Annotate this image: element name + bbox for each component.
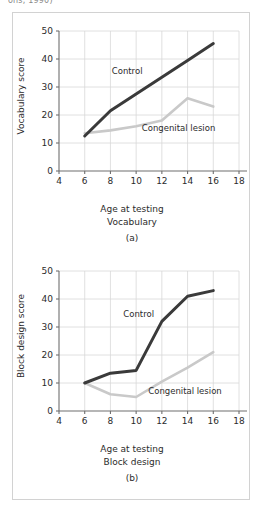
svg-text:30: 30 xyxy=(42,82,54,92)
svg-text:16: 16 xyxy=(208,416,220,426)
panel-letter-b: (b) xyxy=(13,471,251,486)
svg-text:4: 4 xyxy=(56,416,62,426)
svg-text:8: 8 xyxy=(108,176,114,186)
svg-text:14: 14 xyxy=(182,176,194,186)
svg-text:14: 14 xyxy=(182,416,194,426)
figure-frame: Vocabulary score 01020304050468101214161… xyxy=(12,12,250,500)
x-axis-title-vocabulary: Age at testing xyxy=(13,203,251,216)
svg-text:10: 10 xyxy=(42,378,54,388)
plot-area-block-design: Block design score 010203040504681012141… xyxy=(13,261,251,439)
svg-text:50: 50 xyxy=(42,266,54,276)
svg-text:Control: Control xyxy=(112,66,143,76)
svg-text:18: 18 xyxy=(233,416,245,426)
plot-area-vocabulary: Vocabulary score 01020304050468101214161… xyxy=(13,21,251,199)
svg-text:12: 12 xyxy=(156,176,167,186)
block-design-line-chart: 010203040504681012141618ControlCongenita… xyxy=(13,261,251,439)
svg-text:6: 6 xyxy=(82,176,88,186)
top-citation-fragment: ons, 1990) xyxy=(8,0,53,5)
x-axis-title-block-design: Age at testing xyxy=(13,443,251,456)
svg-text:Congenital lesion: Congenital lesion xyxy=(148,386,221,396)
caption-block-design: Age at testing Block design (b) xyxy=(13,443,251,486)
vocabulary-line-chart: 010203040504681012141618ControlCongenita… xyxy=(13,21,251,199)
svg-text:30: 30 xyxy=(42,322,54,332)
svg-text:Congenital lesion: Congenital lesion xyxy=(142,123,215,133)
svg-text:Control: Control xyxy=(123,309,154,319)
panel-subtitle-block-design: Block design xyxy=(13,456,251,469)
svg-text:4: 4 xyxy=(56,176,62,186)
chart-panel-vocabulary: Vocabulary score 01020304050468101214161… xyxy=(13,21,251,257)
chart-panel-block-design: Block design score 010203040504681012141… xyxy=(13,261,251,497)
svg-text:10: 10 xyxy=(130,416,142,426)
svg-text:20: 20 xyxy=(42,110,54,120)
svg-text:50: 50 xyxy=(42,26,54,36)
svg-text:40: 40 xyxy=(42,54,54,64)
svg-text:6: 6 xyxy=(82,416,88,426)
svg-text:12: 12 xyxy=(156,416,167,426)
svg-text:18: 18 xyxy=(233,176,245,186)
svg-text:10: 10 xyxy=(42,138,54,148)
panel-letter-a: (a) xyxy=(13,231,251,246)
svg-text:0: 0 xyxy=(47,406,53,416)
svg-text:16: 16 xyxy=(208,176,220,186)
caption-vocabulary: Age at testing Vocabulary (a) xyxy=(13,203,251,246)
svg-text:40: 40 xyxy=(42,294,54,304)
svg-text:8: 8 xyxy=(108,416,114,426)
svg-text:0: 0 xyxy=(47,166,53,176)
svg-text:20: 20 xyxy=(42,350,54,360)
svg-text:10: 10 xyxy=(130,176,142,186)
panel-subtitle-vocabulary: Vocabulary xyxy=(13,216,251,229)
